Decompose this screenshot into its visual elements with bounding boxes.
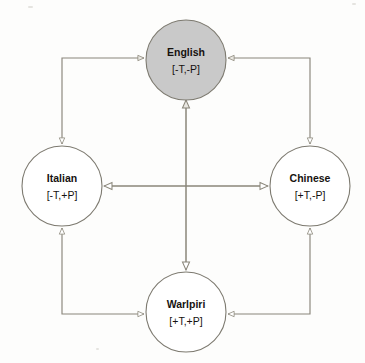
node-warlpiri-circle[interactable] xyxy=(146,272,226,352)
node-chinese-circle[interactable] xyxy=(270,146,350,226)
node-english-circle[interactable] xyxy=(146,20,226,100)
edge-italian-warlpiri xyxy=(62,228,144,314)
node-italian-circle[interactable] xyxy=(22,146,102,226)
node-italian-label: Italian xyxy=(47,172,77,184)
edge-english-chinese xyxy=(228,58,310,144)
edge-english-italian xyxy=(62,58,144,144)
node-italian-features: [-T,+P] xyxy=(47,189,78,201)
node-chinese-features: [+T,-P] xyxy=(295,189,326,201)
node-italian[interactable]: Italian [-T,+P] xyxy=(22,146,102,226)
node-english[interactable]: English [-T,-P] xyxy=(146,20,226,100)
node-warlpiri[interactable]: Warlpiri [+T,+P] xyxy=(146,272,226,352)
node-chinese-label: Chinese xyxy=(290,172,331,184)
node-warlpiri-label: Warlpiri xyxy=(167,298,206,310)
node-warlpiri-features: [+T,+P] xyxy=(169,315,202,327)
edge-chinese-warlpiri xyxy=(228,228,310,314)
node-english-features: [-T,-P] xyxy=(172,63,200,75)
node-english-label: English xyxy=(167,46,205,58)
node-chinese[interactable]: Chinese [+T,-P] xyxy=(270,146,350,226)
diagram-canvas: English [-T,-P] Italian [-T,+P] Chinese … xyxy=(0,0,365,363)
language-typology-diagram: English [-T,-P] Italian [-T,+P] Chinese … xyxy=(0,0,365,363)
